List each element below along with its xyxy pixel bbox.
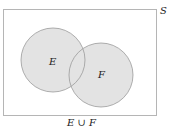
set-f-label: F	[97, 69, 106, 80]
universe-label: S	[160, 5, 167, 16]
set-e-label: E	[48, 56, 57, 67]
caption: E ∪ F	[66, 117, 97, 128]
venn-diagram: E F S E ∪ F	[0, 0, 171, 128]
